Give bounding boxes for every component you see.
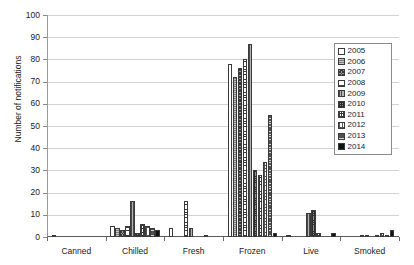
legend-item[interactable]: 2014 <box>338 141 388 152</box>
legend-swatch-icon <box>338 48 345 55</box>
bar <box>130 201 134 237</box>
bar-group <box>47 15 106 237</box>
legend-item[interactable]: 2008 <box>338 78 388 89</box>
y-axis-tick-label: 0 <box>0 232 40 242</box>
legend-item-label: 2012 <box>348 121 366 129</box>
bar <box>263 162 267 237</box>
bar <box>125 226 129 237</box>
legend-swatch-icon <box>338 122 345 129</box>
y-axis-tick-label: 60 <box>0 98 40 108</box>
bar <box>189 228 193 237</box>
bar <box>375 235 379 237</box>
legend-swatch-icon <box>338 58 345 65</box>
bar <box>184 201 188 237</box>
bar <box>135 233 139 237</box>
bar <box>385 235 389 237</box>
legend-item-label: 2007 <box>348 68 366 76</box>
bar <box>145 226 149 237</box>
legend-item-label: 2008 <box>348 79 366 87</box>
bar <box>120 230 124 237</box>
legend-item[interactable]: 2012 <box>338 120 388 131</box>
y-axis-tick-label: 50 <box>0 121 40 131</box>
x-axis-tick-mark <box>340 237 341 241</box>
legend-item[interactable]: 2006 <box>338 57 388 68</box>
legend-swatch-icon <box>338 80 345 87</box>
bar <box>365 235 369 237</box>
bar <box>258 175 262 237</box>
y-axis-tick-label: 80 <box>0 54 40 64</box>
legend-swatch-icon <box>338 143 345 150</box>
bar <box>268 115 272 237</box>
bar <box>360 235 364 237</box>
bar <box>150 228 154 237</box>
y-axis-tick-label: 30 <box>0 165 40 175</box>
y-axis-tick-label: 100 <box>0 10 40 20</box>
bar <box>115 228 119 237</box>
x-axis-tick-mark <box>106 237 107 241</box>
bar <box>286 235 290 237</box>
bar <box>331 233 335 237</box>
legend-item-label: 2011 <box>348 111 365 119</box>
bar <box>253 170 257 237</box>
bar <box>155 230 159 237</box>
bar <box>380 233 384 237</box>
bar <box>204 235 208 237</box>
bar-group <box>282 15 341 237</box>
bar <box>316 233 320 237</box>
bar <box>110 226 114 237</box>
x-axis-tick-mark <box>399 237 400 241</box>
bar <box>243 59 247 237</box>
bar <box>140 224 144 237</box>
x-axis-tick-mark <box>282 237 283 241</box>
legend-item[interactable]: 2011 <box>338 110 388 121</box>
legend-item[interactable]: 2010 <box>338 99 388 110</box>
legend-item-label: 2005 <box>348 47 366 55</box>
legend-item-label: 2013 <box>348 132 366 140</box>
y-axis-tick-label: 40 <box>0 143 40 153</box>
bar <box>273 233 277 237</box>
y-axis-tick-label: 90 <box>0 32 40 42</box>
x-axis-tick-mark <box>47 237 48 241</box>
bar <box>306 213 310 237</box>
legend-item-label: 2009 <box>348 90 366 98</box>
bar <box>311 210 315 237</box>
y-axis-tick-label: 10 <box>0 209 40 219</box>
y-axis-tick-label: 70 <box>0 76 40 86</box>
bar <box>228 64 232 237</box>
bar <box>233 77 237 237</box>
bar <box>169 228 173 237</box>
y-axis-tick-label: 20 <box>0 187 40 197</box>
legend-item[interactable]: 2005 <box>338 46 388 57</box>
bar <box>248 44 252 237</box>
legend-swatch-icon <box>338 101 345 108</box>
x-axis-tick-label: Smoked <box>335 246 405 256</box>
legend-item-label: 2006 <box>348 58 366 66</box>
legend-item-label: 2014 <box>348 143 366 151</box>
legend-swatch-icon <box>338 69 345 76</box>
legend-swatch-icon <box>338 133 345 140</box>
legend-item-label: 2010 <box>348 100 366 108</box>
bar-chart: Number of notifications 1009080706050403… <box>0 0 414 265</box>
legend-item[interactable]: 2013 <box>338 131 388 142</box>
legend-item[interactable]: 2009 <box>338 88 388 99</box>
legend-swatch-icon <box>338 90 345 97</box>
legend-swatch-icon <box>338 111 345 118</box>
legend-item[interactable]: 2007 <box>338 67 388 78</box>
bar-group <box>223 15 282 237</box>
bar <box>52 235 56 237</box>
bar <box>238 68 242 237</box>
bar <box>390 230 394 237</box>
bar-group <box>106 15 165 237</box>
chart-legend: 2005200620072008200920102011201220132014 <box>334 43 392 155</box>
x-axis-tick-mark <box>164 237 165 241</box>
x-axis-tick-mark <box>223 237 224 241</box>
bar-group <box>164 15 223 237</box>
